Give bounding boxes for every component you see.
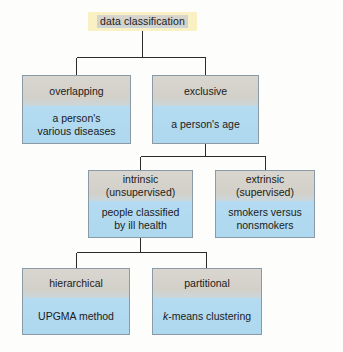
node-extrinsic-label: extrinsic (supervised) xyxy=(216,171,314,201)
node-hierarchical-example: UPGMA method xyxy=(23,298,129,334)
node-extrinsic-label-line2: (supervised) xyxy=(236,186,294,199)
node-data-classification[interactable]: data classification xyxy=(88,12,197,31)
node-exclusive-example: a person's age xyxy=(153,106,258,143)
node-intrinsic-example-line1: people classified xyxy=(102,206,180,219)
node-intrinsic-example-line2: by ill health xyxy=(114,219,167,232)
node-overlapping-label: overlapping xyxy=(23,76,130,106)
node-hierarchical[interactable]: hierarchical UPGMA method xyxy=(22,268,130,335)
node-partitional-example-rest: -means clustering xyxy=(168,310,251,322)
node-intrinsic-example: people classified by ill health xyxy=(89,201,192,237)
node-hierarchical-example-line1: UPGMA method xyxy=(38,310,114,323)
node-intrinsic[interactable]: intrinsic (unsupervised) people classifi… xyxy=(88,170,193,238)
node-extrinsic-example: smokers versus nonsmokers xyxy=(216,201,314,237)
node-partitional-example: k-means clustering xyxy=(153,298,261,334)
node-overlapping-example-line2: various diseases xyxy=(37,125,115,138)
node-partitional-label-text: partitional xyxy=(184,277,230,290)
node-overlapping-example-line1: a person's xyxy=(52,112,100,125)
node-extrinsic[interactable]: extrinsic (supervised) smokers versus no… xyxy=(215,170,315,238)
node-data-classification-label: data classification xyxy=(97,15,188,28)
classification-tree-diagram: data classification overlapping a person… xyxy=(0,0,343,352)
node-overlapping[interactable]: overlapping a person's various diseases xyxy=(22,75,131,144)
node-extrinsic-example-line2: nonsmokers xyxy=(236,219,293,232)
node-exclusive-label: exclusive xyxy=(153,76,258,106)
node-exclusive-example-line1: a person's age xyxy=(171,118,240,131)
node-overlapping-label-text: overlapping xyxy=(49,85,103,98)
node-exclusive-label-text: exclusive xyxy=(184,85,227,98)
node-hierarchical-label: hierarchical xyxy=(23,269,129,298)
node-intrinsic-label-line2: (unsupervised) xyxy=(106,186,175,199)
node-partitional-label: partitional xyxy=(153,269,261,298)
node-exclusive[interactable]: exclusive a person's age xyxy=(152,75,259,144)
node-overlapping-example: a person's various diseases xyxy=(23,106,130,143)
node-partitional-example-line1: k-means clustering xyxy=(163,310,251,323)
node-intrinsic-label-line1: intrinsic xyxy=(123,173,159,186)
node-intrinsic-label: intrinsic (unsupervised) xyxy=(89,171,192,201)
node-partitional[interactable]: partitional k-means clustering xyxy=(152,268,262,335)
node-extrinsic-example-line1: smokers versus xyxy=(228,206,302,219)
node-extrinsic-label-line1: extrinsic xyxy=(246,173,285,186)
node-hierarchical-label-text: hierarchical xyxy=(49,277,103,290)
